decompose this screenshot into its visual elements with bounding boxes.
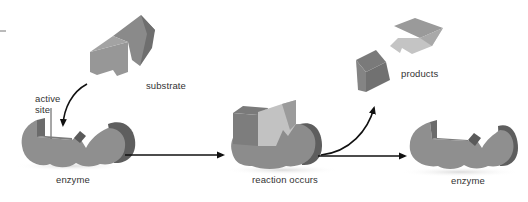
enzyme-right-shape	[400, 120, 520, 177]
active-site-label-line2: site	[35, 104, 60, 115]
binding-arrow	[63, 84, 87, 125]
products-label: products	[401, 68, 438, 79]
arrow-to-products	[321, 108, 374, 155]
enzyme-reaction-diagram: substrate active site enzyme reaction oc…	[0, 0, 528, 202]
active-site-label: active site	[35, 93, 60, 115]
enzyme-right-label: enzyme	[451, 175, 485, 186]
substrate-shape	[90, 15, 155, 76]
products-shapes	[356, 18, 443, 92]
reaction-occurs-label: reaction occurs	[252, 174, 318, 185]
product-wedge	[390, 18, 443, 54]
substrate-label: substrate	[146, 80, 186, 91]
diagram-canvas	[0, 0, 528, 202]
enzyme-left-shape	[15, 118, 135, 171]
active-site-label-line1: active	[35, 93, 60, 104]
enzyme-left-label: enzyme	[56, 174, 90, 185]
product-cube	[356, 50, 390, 92]
enzyme-substrate-complex-shape	[224, 100, 340, 175]
